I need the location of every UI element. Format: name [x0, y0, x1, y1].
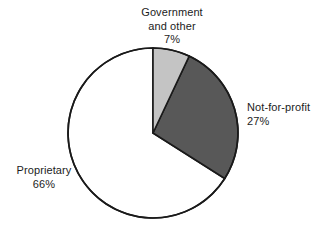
slice-label-not-for-profit: Not-for-profit 27% — [247, 101, 325, 128]
slice-label-government-value: 7% — [113, 33, 231, 47]
slice-label-not-for-profit-value: 27% — [247, 115, 325, 129]
slice-label-government-line2: and other — [113, 20, 231, 34]
slice-label-proprietary: Proprietary 66% — [3, 164, 85, 191]
slice-label-proprietary-value: 66% — [3, 178, 85, 192]
slice-label-not-for-profit-name: Not-for-profit — [247, 101, 325, 115]
slice-label-government-and-other: Government and other 7% — [113, 6, 231, 47]
slice-label-government-line1: Government — [113, 6, 231, 20]
slice-label-proprietary-name: Proprietary — [3, 164, 85, 178]
pie-chart: Government and other 7% Not-for-profit 2… — [0, 0, 326, 237]
